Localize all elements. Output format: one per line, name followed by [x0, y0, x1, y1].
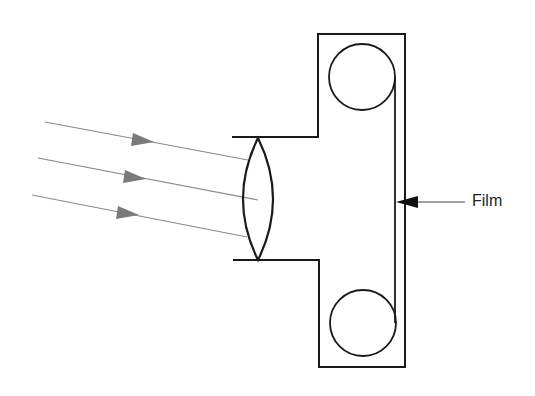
- ray-arrowhead-icon: [123, 170, 146, 183]
- film-takeup-spool: [330, 290, 396, 356]
- ray-arrowhead-icon: [116, 206, 139, 219]
- film-pointer-arrowhead-icon: [396, 196, 418, 208]
- camera-body-upper: [232, 34, 405, 367]
- ray-arrowhead-icon: [131, 133, 154, 146]
- film-supply-spool: [329, 44, 395, 110]
- converging-lens: [243, 138, 273, 260]
- ray-arrowheads: [116, 133, 154, 219]
- film-label: Film: [472, 192, 502, 210]
- light-ray-2: [38, 158, 258, 200]
- camera-diagram: [0, 0, 535, 396]
- camera-body: [232, 34, 405, 367]
- light-ray-3: [32, 195, 247, 237]
